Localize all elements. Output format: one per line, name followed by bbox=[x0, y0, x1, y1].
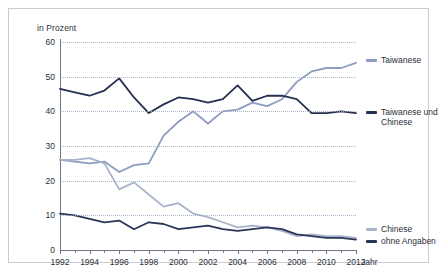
y-axis-tick-label: 40 bbox=[33, 106, 55, 116]
x-axis-tick-label: 2006 bbox=[258, 257, 277, 267]
y-axis-tick-label: 0 bbox=[33, 245, 55, 255]
x-axis-tick bbox=[75, 250, 76, 253]
x-axis-tick bbox=[119, 250, 120, 254]
x-axis-tick-label: 2002 bbox=[199, 257, 218, 267]
x-axis-tick bbox=[193, 250, 194, 253]
x-axis-tick bbox=[178, 250, 179, 254]
x-axis-tick-label: 1994 bbox=[80, 257, 99, 267]
gridline bbox=[60, 77, 356, 78]
x-axis-tick-label: 1998 bbox=[139, 257, 158, 267]
legend-swatch-icon bbox=[366, 59, 377, 62]
x-axis-tick bbox=[356, 250, 357, 254]
legend-item: Taiwanese und Chinese bbox=[366, 107, 438, 127]
x-axis-tick bbox=[282, 250, 283, 253]
x-axis-tick bbox=[208, 250, 209, 254]
legend-label: ohne Angaben bbox=[381, 236, 436, 246]
x-axis-tick bbox=[104, 250, 105, 253]
x-axis-tick bbox=[60, 250, 61, 254]
x-axis-tick bbox=[312, 250, 313, 253]
gridline bbox=[60, 215, 356, 216]
y-axis-tick-label: 50 bbox=[33, 72, 55, 82]
legend-label: Taiwanese bbox=[381, 55, 421, 65]
y-axis-tick-label: 60 bbox=[33, 37, 55, 47]
legend-item: Chinese bbox=[366, 224, 412, 234]
x-axis-tick bbox=[326, 250, 327, 254]
x-axis-tick bbox=[90, 250, 91, 254]
legend-swatch-icon bbox=[366, 240, 377, 243]
legend-label: Chinese bbox=[381, 224, 412, 234]
y-axis-tick-label: 30 bbox=[33, 141, 55, 151]
x-axis-tick bbox=[297, 250, 298, 254]
gridline bbox=[60, 146, 356, 147]
x-axis-tick-label: 2008 bbox=[287, 257, 306, 267]
y-axis-caption: in Prozent bbox=[37, 23, 76, 33]
gridline bbox=[60, 111, 356, 112]
legend-item: Taiwanese bbox=[366, 55, 421, 65]
y-axis-tick-label: 10 bbox=[33, 210, 55, 220]
legend-item: ohne Angaben bbox=[366, 236, 436, 246]
y-axis-tick-labels: 0102030405060 bbox=[29, 42, 55, 250]
x-axis-tick-label: 2010 bbox=[317, 257, 336, 267]
series-line bbox=[60, 78, 356, 113]
legend-label: Taiwanese und Chinese bbox=[381, 107, 438, 127]
y-axis-tick-label: 20 bbox=[33, 176, 55, 186]
x-axis-tick-label: 2000 bbox=[169, 257, 188, 267]
x-axis-tick bbox=[134, 250, 135, 253]
x-axis-tick-label: 1996 bbox=[110, 257, 129, 267]
x-axis-tick bbox=[149, 250, 150, 254]
x-axis-tick bbox=[267, 250, 268, 254]
x-axis-tick bbox=[164, 250, 165, 253]
legend-swatch-icon bbox=[366, 228, 377, 231]
gridline bbox=[60, 42, 356, 43]
x-axis-tick-label: 2012 bbox=[347, 257, 366, 267]
x-axis-tick bbox=[252, 250, 253, 253]
x-axis-tick-label: 2004 bbox=[228, 257, 247, 267]
chart-frame: in Prozent 0102030405060 Jahr TaiwaneseT… bbox=[8, 8, 429, 263]
plot-area bbox=[60, 42, 356, 250]
series-line bbox=[60, 63, 356, 172]
x-axis-tick bbox=[238, 250, 239, 254]
chart-legend: TaiwaneseTaiwanese und ChineseChineseohn… bbox=[366, 9, 442, 264]
x-axis-tick bbox=[223, 250, 224, 253]
gridline bbox=[60, 181, 356, 182]
legend-swatch-icon bbox=[366, 111, 377, 114]
x-axis-tick bbox=[341, 250, 342, 253]
x-axis-tick-label: 1992 bbox=[51, 257, 70, 267]
